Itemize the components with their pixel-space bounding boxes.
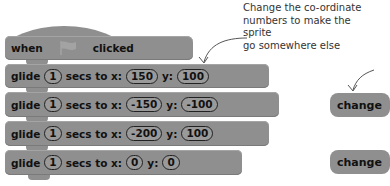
y-label: y: bbox=[166, 128, 177, 140]
secs-input[interactable]: 1 bbox=[44, 97, 61, 112]
secs-input[interactable]: 1 bbox=[44, 69, 61, 84]
change-label: change bbox=[337, 93, 382, 117]
change-block-1[interactable]: change bbox=[330, 93, 390, 117]
glide-label: glide bbox=[11, 70, 40, 82]
green-flag-icon bbox=[57, 40, 79, 56]
glide-label: glide bbox=[11, 99, 40, 111]
y-input[interactable]: 0 bbox=[162, 155, 179, 170]
secs-to-x-label: secs to x: bbox=[66, 128, 122, 140]
annotation-text: Change the co-ordinate numbers to make t… bbox=[243, 2, 374, 52]
x-input[interactable]: 150 bbox=[126, 69, 158, 84]
clicked-label: clicked bbox=[93, 42, 134, 54]
y-label: y: bbox=[147, 157, 158, 169]
block-notch bbox=[28, 175, 50, 180]
x-input[interactable]: -150 bbox=[126, 97, 162, 112]
glide-label: glide bbox=[11, 157, 40, 169]
y-input[interactable]: -100 bbox=[181, 97, 217, 112]
glide-block-3[interactable]: glide 1 secs to x: -200 y: 100 bbox=[5, 121, 269, 146]
glide-label: glide bbox=[11, 128, 40, 140]
y-label: y: bbox=[162, 70, 173, 82]
glide-block-4[interactable]: glide 1 secs to x: 0 y: 0 bbox=[5, 150, 242, 175]
secs-input[interactable]: 1 bbox=[44, 126, 61, 141]
secs-to-x-label: secs to x: bbox=[66, 157, 122, 169]
secs-to-x-label: secs to x: bbox=[66, 70, 122, 82]
x-input[interactable]: 0 bbox=[126, 155, 143, 170]
when-flag-clicked-block[interactable]: when clicked bbox=[5, 36, 193, 60]
secs-input[interactable]: 1 bbox=[44, 155, 61, 170]
y-input[interactable]: 100 bbox=[181, 126, 213, 141]
x-input[interactable]: -200 bbox=[126, 126, 162, 141]
annotation-arrow-icon bbox=[195, 30, 255, 72]
glide-block-2[interactable]: glide 1 secs to x: -150 y: -100 bbox=[5, 92, 279, 117]
secs-to-x-label: secs to x: bbox=[66, 99, 122, 111]
y-label: y: bbox=[166, 99, 177, 111]
when-label: when bbox=[11, 42, 43, 54]
change-block-2[interactable]: change bbox=[330, 150, 390, 174]
change-label: change bbox=[337, 150, 382, 174]
